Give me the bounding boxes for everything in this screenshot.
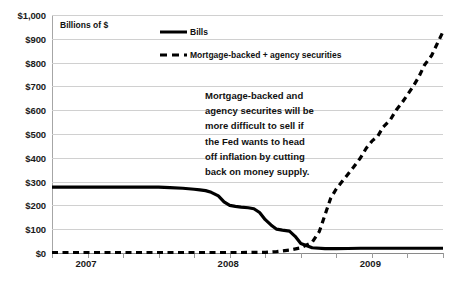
y-tick-label: $400 xyxy=(0,152,46,163)
legend-item-bills[interactable]: Bills xyxy=(160,20,410,43)
annotation-line: the Fed wants to head xyxy=(205,134,355,149)
y-tick-label: $700 xyxy=(0,81,46,92)
x-tick-label: 2007 xyxy=(75,258,96,269)
x-tick-mark xyxy=(443,253,444,258)
y-tick-label: $100 xyxy=(0,224,46,235)
annotation-line: back on money supply. xyxy=(205,164,355,179)
legend-swatch-solid-icon xyxy=(160,27,187,37)
y-tick-label: $0 xyxy=(0,248,46,259)
annotation-line: more difficult to sell if xyxy=(205,118,355,133)
annotation-line: agency securites will be xyxy=(205,103,355,118)
x-tick-label: 2008 xyxy=(218,258,239,269)
y-tick-label: $500 xyxy=(0,129,46,140)
y-tick-label: $300 xyxy=(0,176,46,187)
x-tick-label: 2009 xyxy=(360,258,381,269)
annotation-line: off inflation by cutting xyxy=(205,149,355,164)
x-axis-line xyxy=(52,253,443,254)
y-axis-title: Billions of $ xyxy=(60,20,108,30)
y-tick-label: $200 xyxy=(0,200,46,211)
y-tick-label: $800 xyxy=(0,57,46,68)
legend-label-mbs: Mortgage-backed + agency securities xyxy=(190,50,341,60)
chart-container: $0$100$200$300$400$500$600$700$800$900$1… xyxy=(0,0,451,284)
y-tick-label: $1,000 xyxy=(0,10,46,21)
y-tick-label: $900 xyxy=(0,33,46,44)
chart-legend: Bills Mortgage-backed + agency securitie… xyxy=(160,20,410,66)
legend-label-bills: Bills xyxy=(190,27,208,37)
chart-annotation: Mortgage-backed and agency securites wil… xyxy=(205,88,355,179)
legend-swatch-dashed-icon xyxy=(160,50,187,60)
series-line-bills xyxy=(52,187,443,249)
y-tick-label: $600 xyxy=(0,105,46,116)
x-axis-labels: 200720082009 xyxy=(52,258,443,278)
annotation-line: Mortgage-backed and xyxy=(205,88,355,103)
y-axis-labels: $0$100$200$300$400$500$600$700$800$900$1… xyxy=(0,0,46,284)
legend-item-mbs[interactable]: Mortgage-backed + agency securities xyxy=(160,43,410,66)
